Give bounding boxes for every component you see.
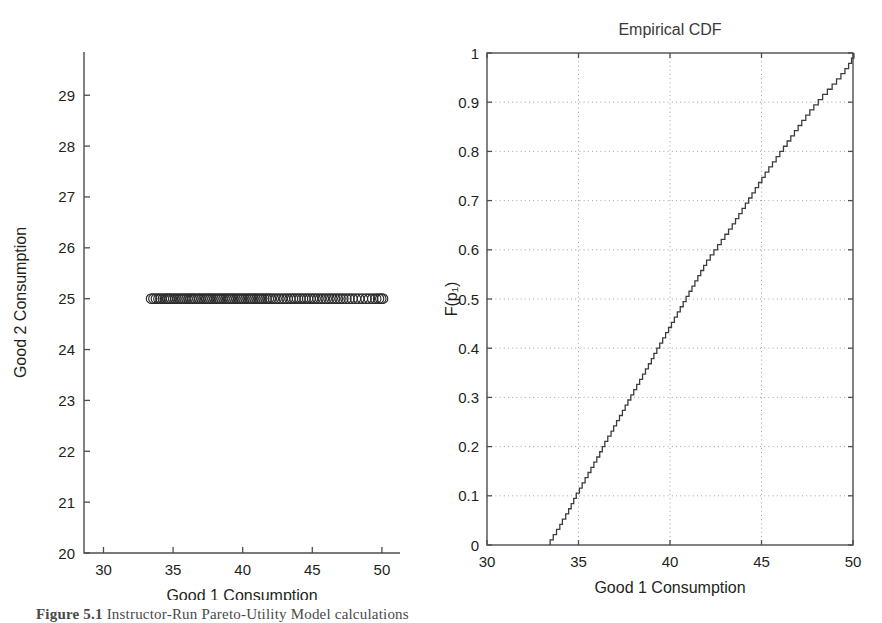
scatter-y-tick-label: 28 [58,138,75,155]
figure-container: 202122232425262728293035404550Good 1 Con… [0,0,882,623]
cdf-x-tick-label: 40 [662,553,679,570]
cdf-x-tick-label: 30 [479,553,496,570]
cdf-y-tick-label: 0.5 [458,291,479,308]
cdf-x-tick-label: 50 [845,553,862,570]
cdf-y-tick-label: 0 [471,537,479,554]
cdf-y-tick-label: 0.4 [458,340,479,357]
chart-panel-cdf: 00.10.20.30.40.50.60.70.80.913035404550E… [441,0,882,600]
scatter-y-tick-label: 20 [58,545,75,562]
cdf-x-axis-title: Good 1 Consumption [594,579,745,596]
cdf-y-tick-label: 0.6 [458,241,479,258]
figure-caption-number: Figure 5.1 [36,606,103,622]
scatter-y-tick-label: 23 [58,392,75,409]
scatter-y-tick-label: 29 [58,87,75,104]
cdf-y-tick-label: 0.1 [458,487,479,504]
figure-caption-body: Instructor-Run Pareto-Utility Model calc… [103,606,409,622]
scatter-chart-svg: 202122232425262728293035404550Good 1 Con… [0,0,441,600]
cdf-y-tick-label: 0.3 [458,389,479,406]
scatter-y-axis-title: Good 2 Consumption [12,227,29,378]
chart-panel-scatter: 202122232425262728293035404550Good 1 Con… [0,0,441,600]
figure-caption: Figure 5.1 Instructor-Run Pareto-Utility… [36,606,409,623]
scatter-points-group [146,294,387,304]
scatter-x-tick-label: 40 [234,561,251,578]
cdf-y-tick-label: 0.7 [458,192,479,209]
cdf-chart-svg: 00.10.20.30.40.50.60.70.80.913035404550E… [441,0,882,600]
scatter-x-axis-title: Good 1 Consumption [166,587,317,600]
scatter-x-tick-label: 50 [374,561,391,578]
cdf-x-tick-label: 35 [570,553,587,570]
cdf-y-axis-title: F(p₁) [443,282,460,317]
cdf-y-tick-label: 1 [471,45,479,62]
scatter-y-tick-label: 22 [58,443,75,460]
scatter-x-tick-label: 35 [165,561,182,578]
cdf-chart-title: Empirical CDF [618,21,721,38]
scatter-y-tick-label: 24 [58,341,75,358]
figure-caption-strip: Figure 5.1 Instructor-Run Pareto-Utility… [0,606,882,623]
scatter-y-tick-label: 25 [58,290,75,307]
scatter-y-tick-label: 27 [58,188,75,205]
cdf-y-tick-label: 0.8 [458,143,479,160]
cdf-x-tick-label: 45 [753,553,770,570]
cdf-y-tick-label: 0.2 [458,438,479,455]
scatter-y-tick-label: 21 [58,494,75,511]
scatter-x-tick-label: 45 [304,561,321,578]
cdf-y-tick-label: 0.9 [458,94,479,111]
scatter-x-tick-label: 30 [95,561,112,578]
scatter-y-tick-label: 26 [58,239,75,256]
